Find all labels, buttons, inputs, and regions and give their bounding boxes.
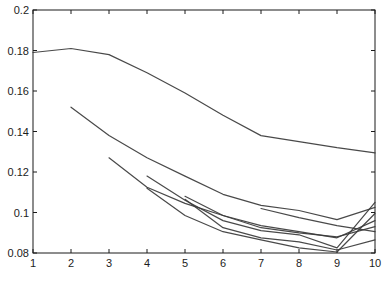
y-tick-label: 0.16 <box>8 85 29 97</box>
x-tick-label: 9 <box>334 257 340 269</box>
x-tick-label: 10 <box>369 257 381 269</box>
y-tick-label: 0.08 <box>8 247 29 259</box>
y-tick-label: 0.18 <box>8 45 29 57</box>
x-tick-label: 8 <box>296 257 302 269</box>
y-tick-label: 0.1 <box>14 207 29 219</box>
y-tick-label: 0.12 <box>8 166 29 178</box>
x-tick-label: 3 <box>106 257 112 269</box>
x-tick-label: 2 <box>68 257 74 269</box>
x-tick-label: 6 <box>220 257 226 269</box>
x-tick-label: 5 <box>182 257 188 269</box>
figure-page: 123456789100.20.180.160.140.120.10.08 <box>0 0 390 282</box>
x-tick-label: 1 <box>30 257 36 269</box>
x-tick-label: 4 <box>144 257 150 269</box>
y-tick-label: 0.14 <box>8 126 29 138</box>
figure-background <box>0 0 390 282</box>
line-chart: 123456789100.20.180.160.140.120.10.08 <box>0 0 390 282</box>
y-tick-label: 0.2 <box>14 4 29 16</box>
x-tick-label: 7 <box>258 257 264 269</box>
